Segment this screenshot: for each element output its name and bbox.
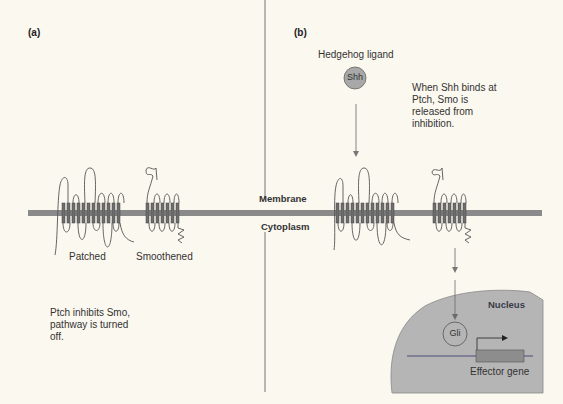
smoothened-protein-b xyxy=(432,168,471,243)
effector-gene-box xyxy=(476,350,524,362)
nucleus-label: Nucleus xyxy=(488,299,525,310)
caption-line: released from xyxy=(412,106,497,118)
gli-label: Gli xyxy=(443,328,467,338)
smoothened-label: Smoothened xyxy=(136,251,193,263)
panel-a-caption: Ptch inhibits Smo, pathway is turned off… xyxy=(50,307,130,343)
panel-b-caption: When Shh binds at Ptch, Smo is released … xyxy=(412,82,497,130)
ligand-arrowhead xyxy=(353,151,359,157)
effector-gene-label: Effector gene xyxy=(470,366,529,378)
caption-line: Ptch inhibits Smo, xyxy=(50,307,130,319)
smo-signal-arrowhead xyxy=(452,267,458,273)
caption-line: off. xyxy=(50,331,130,343)
shh-label: Shh xyxy=(344,72,366,82)
caption-line: When Shh binds at xyxy=(412,82,497,94)
cytoplasm-label: Cytoplasm xyxy=(261,221,310,232)
smoothened-protein-a xyxy=(146,168,184,243)
patched-label: Patched xyxy=(69,251,106,263)
panel-label-b: (b) xyxy=(294,27,307,38)
membrane-label: Membrane xyxy=(259,193,307,204)
panel-label-a: (a) xyxy=(28,27,40,38)
hedgehog-ligand-label: Hedgehog ligand xyxy=(318,49,394,61)
caption-line: inhibition. xyxy=(412,118,497,130)
patched-protein-b xyxy=(334,168,410,250)
caption-line: Ptch, Smo is xyxy=(412,94,497,106)
caption-line: pathway is turned xyxy=(50,319,130,331)
